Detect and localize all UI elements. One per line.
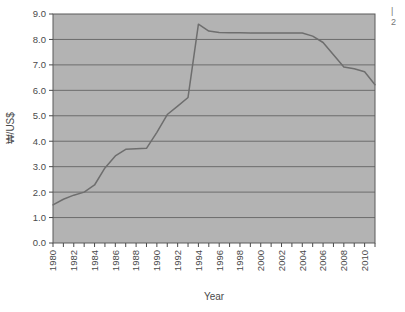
line-chart: 0.01.02.03.04.05.06.07.08.09.0 198019821… <box>0 0 405 312</box>
y-axis-title: ₩/US$ <box>5 112 16 144</box>
x-axis-tick-label: 2002 <box>276 250 287 271</box>
chart-figure: 0.01.02.03.04.05.06.07.08.09.0 198019821… <box>0 0 405 312</box>
x-axis-tick-label: 1984 <box>89 250 100 271</box>
y-axis-tick-label: 6.0 <box>33 85 46 96</box>
x-axis-tick-label: 1986 <box>110 250 121 271</box>
x-axis-tick-label: 1980 <box>47 250 58 271</box>
x-axis-tick-label: 2006 <box>317 250 328 271</box>
y-axis-tick-label: 2.0 <box>33 187 46 198</box>
page-edge-text-fragment: | 2 <box>391 6 405 32</box>
x-axis-tick-labels: 1980198219841986198819901992199419961998… <box>47 250 370 271</box>
x-axis-tick-label: 1994 <box>193 250 204 271</box>
y-axis-tick-labels: 0.01.02.03.04.05.06.07.08.09.0 <box>33 8 46 248</box>
edge-fragment-line-2: 2 <box>391 17 405 28</box>
x-axis-tick-label: 1982 <box>68 250 79 271</box>
plot-area-background <box>53 14 375 243</box>
x-axis-tick-label: 2010 <box>359 250 370 271</box>
x-axis-tick-label: 1996 <box>214 250 225 271</box>
y-axis-ticks <box>49 14 53 243</box>
y-axis-tick-label: 9.0 <box>33 8 46 19</box>
x-axis-tick-label: 2008 <box>338 250 349 271</box>
y-axis-tick-label: 3.0 <box>33 161 46 172</box>
x-axis-tick-label: 2000 <box>255 250 266 271</box>
edge-fragment-line-1: | <box>391 6 405 17</box>
y-axis-tick-label: 5.0 <box>33 110 46 121</box>
x-axis-tick-label: 1988 <box>130 250 141 271</box>
y-axis-tick-label: 4.0 <box>33 136 46 147</box>
x-axis-tick-label: 1990 <box>151 250 162 271</box>
x-axis-title: Year <box>204 291 225 302</box>
x-axis-ticks <box>53 243 375 247</box>
y-axis-tick-label: 8.0 <box>33 34 46 45</box>
y-axis-tick-label: 1.0 <box>33 212 46 223</box>
y-axis-tick-label: 7.0 <box>33 59 46 70</box>
x-axis-tick-label: 1992 <box>172 250 183 271</box>
y-axis-tick-label: 0.0 <box>33 237 46 248</box>
x-axis-tick-label: 1998 <box>234 250 245 271</box>
x-axis-tick-label: 2004 <box>297 250 308 271</box>
